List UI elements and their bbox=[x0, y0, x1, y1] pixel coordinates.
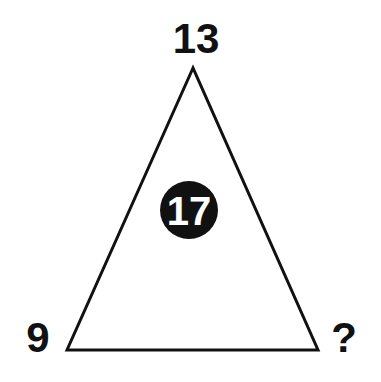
center-number: 17 bbox=[167, 189, 212, 233]
right-unknown: ? bbox=[331, 314, 357, 361]
left-number: 9 bbox=[26, 314, 49, 361]
triangle-number-puzzle: 13 17 9 ? bbox=[0, 0, 381, 382]
top-number: 13 bbox=[173, 15, 220, 62]
